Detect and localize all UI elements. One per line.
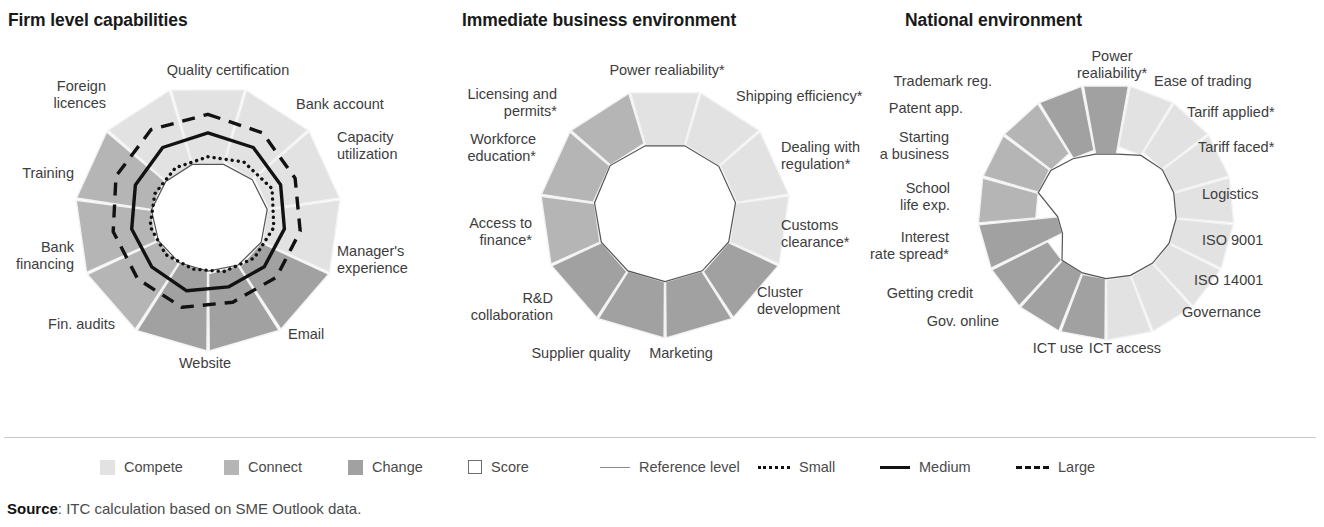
radar-axis-label: Logistics: [1202, 186, 1258, 203]
legend-label: Reference level: [639, 459, 740, 475]
radar-axis-label: Shipping efficiency*: [736, 88, 862, 105]
radar-axis-label: Supplier quality: [441, 345, 721, 362]
radar-axis-label: Bank financing: [16, 239, 74, 272]
radar-axis-label: Bank account: [296, 96, 384, 113]
radar-axis-label: Quality certification: [0, 62, 456, 79]
source-label: Source: [7, 500, 58, 517]
radar-axis-label: Power realiability*: [441, 62, 893, 79]
legend-item-reference-level: Reference level: [600, 459, 740, 475]
radar-axis-label: Capacity utilization: [337, 129, 397, 162]
legend-label: Large: [1058, 459, 1095, 475]
radar-axis-label: Access to finance*: [469, 215, 532, 248]
panel-firm-level-capabilities: Firm level capabilities Quality certific…: [0, 0, 441, 420]
legend-item-change: Change: [348, 459, 423, 475]
radar-axis-label: Cluster development: [757, 284, 840, 317]
radar-axis-label: School life exp.: [900, 180, 950, 213]
legend-item-compete: Compete: [100, 459, 183, 475]
radar-axis-label: Workforce education*: [467, 131, 536, 164]
legend-item-small: Small: [758, 459, 835, 475]
legend-label: Small: [799, 459, 835, 475]
radar-axis-label: Starting a business: [880, 129, 949, 162]
legend-label: Connect: [248, 459, 302, 475]
radar-axis-label: ISO 14001: [1194, 272, 1263, 289]
legend-label: Compete: [124, 459, 183, 475]
radar-axis-label: Customs clearance*: [781, 217, 850, 250]
legend-outline-swatch-icon: [468, 460, 482, 474]
legend-item-connect: Connect: [224, 459, 302, 475]
legend-line-icon: [600, 467, 630, 468]
radar-axis-label: Dealing with regulation*: [781, 139, 860, 172]
radar-axis-label: Tariff applied*: [1187, 104, 1275, 121]
radar-axis-label: Tariff faced*: [1198, 139, 1274, 156]
legend-swatch-icon: [100, 460, 115, 475]
radar-axis-label: Licensing and permits*: [468, 86, 558, 119]
legend-label: Change: [372, 459, 423, 475]
radar-axis-label: R&D collaboration: [471, 290, 553, 323]
source-note: Source: ITC calculation based on SME Out…: [7, 500, 361, 517]
legend-line-icon: [758, 466, 790, 469]
radar-axis-label: Training: [22, 165, 74, 182]
radar-axis-label: Fin. audits: [48, 316, 115, 333]
radar-axis-label: Manager's experience: [337, 243, 408, 276]
legend-line-icon: [880, 466, 910, 469]
legend-swatch-icon: [348, 460, 363, 475]
legend-swatch-icon: [224, 460, 239, 475]
legend-label: Score: [491, 459, 529, 475]
chart-legend: CompeteConnectChangeScoreReference level…: [0, 452, 1324, 482]
source-text: : ITC calculation based on SME Outlook d…: [58, 500, 362, 517]
legend-item-large: Large: [1016, 459, 1095, 475]
charts-row: Firm level capabilities Quality certific…: [0, 0, 1324, 420]
radar-axis-label: Interest rate spread*: [870, 229, 949, 262]
legend-divider: [4, 437, 1316, 438]
legend-label: Medium: [919, 459, 971, 475]
radar-axis-label: ISO 9001: [1202, 232, 1263, 249]
legend-item-medium: Medium: [880, 459, 971, 475]
panel-national-environment: National environment Power realiability*…: [882, 0, 1323, 420]
radar-axis-label: Getting credit: [887, 285, 973, 302]
radar-axis-label: Gov. online: [927, 313, 999, 330]
radar-axis-label: Email: [288, 326, 324, 343]
panel-immediate-business-environment: Immediate business environment Power rea…: [441, 0, 882, 420]
legend-item-score: Score: [468, 459, 529, 475]
radar-axis-label: Website: [0, 355, 410, 372]
radar-axis-label: Patent app.: [889, 100, 963, 117]
radar-axis-label: ICT use: [882, 340, 1234, 357]
radar-axis-label: Ease of trading: [1154, 73, 1252, 90]
radar-axis-label: Governance: [1182, 304, 1261, 321]
radar-axis-label: Trademark reg.: [893, 73, 992, 90]
radar-axis-label: Foreign licences: [54, 78, 106, 111]
legend-line-icon: [1016, 466, 1049, 469]
